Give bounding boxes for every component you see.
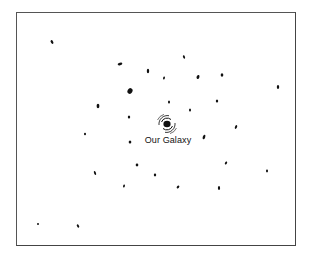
galaxy-dot [50,40,54,45]
galaxy-dot [189,108,191,111]
galaxy-dots [37,40,279,228]
our-galaxy-spiral-icon [158,114,177,133]
galaxy-dot [277,85,279,89]
galaxy-dot [129,141,132,144]
galaxy-dot [218,186,220,190]
our-galaxy-label: Our Galaxy [142,135,194,145]
galaxy-dot [224,161,227,165]
galaxy-dot [176,185,180,189]
galaxy-dot [128,116,130,119]
galaxy-dot [196,75,200,80]
galaxy-dot [154,174,156,177]
galaxy-dot [93,171,96,175]
galaxy-dot [117,62,122,66]
galaxy-dot [123,184,126,188]
galaxy-dot [76,224,80,228]
galaxy-dot [221,73,224,77]
galaxy-dot [163,76,166,80]
galaxy-field [0,0,310,261]
galaxy-dot [168,100,170,103]
galaxy-dot [84,133,86,136]
galaxy-dot [234,125,238,129]
galaxy-dot [266,170,268,173]
galaxy-dot [216,100,218,103]
galaxy-dot [97,104,100,108]
galaxy-dot [126,87,133,95]
galaxy-dot [147,69,149,73]
galaxy-dot [136,164,139,167]
galaxy-dot [202,134,206,139]
galaxy-dot [182,55,185,59]
galaxy-dot [37,223,39,225]
